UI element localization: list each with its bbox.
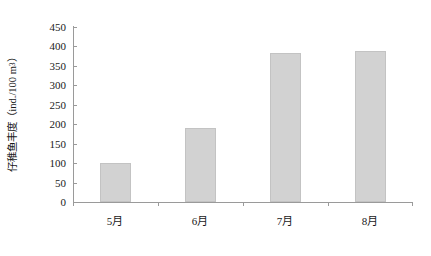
y-tick-mark-150	[73, 144, 77, 145]
y-tick-mark-450	[73, 27, 77, 28]
x-tick-mark-3	[328, 202, 329, 206]
bar-chart: 仔稚鱼丰度（ind./100 m3） 450 400 350 300 250 2…	[0, 0, 431, 256]
x-tick-label-august: 8月	[340, 212, 400, 228]
y-tick-label-300: 300	[36, 79, 66, 91]
y-tick-label-150: 150	[36, 138, 66, 150]
y-tick-label-350: 350	[36, 60, 66, 72]
y-tick-label-400: 400	[36, 40, 66, 52]
y-axis-title-main: 仔稚鱼丰度（ind./100 m	[7, 66, 19, 172]
x-tick-mark-4	[412, 202, 413, 206]
bar-may	[100, 163, 131, 202]
y-tick-label-200: 200	[36, 118, 66, 130]
x-tick-label-may: 5月	[85, 212, 145, 228]
bar-june	[185, 128, 216, 202]
y-tick-mark-300	[73, 85, 77, 86]
y-tick-label-50: 50	[36, 177, 66, 189]
y-tick-mark-400	[73, 46, 77, 47]
y-tick-mark-100	[73, 163, 77, 164]
x-tick-mark-1	[158, 202, 159, 206]
x-tick-mark-0	[73, 202, 74, 206]
y-tick-mark-50	[73, 183, 77, 184]
y-tick-label-100: 100	[36, 157, 66, 169]
y-axis-title-tail: ）	[7, 52, 19, 62]
y-tick-label-450: 450	[36, 21, 66, 33]
x-tick-label-july: 7月	[255, 212, 315, 228]
y-tick-mark-350	[73, 66, 77, 67]
y-tick-label-250: 250	[36, 99, 66, 111]
bar-august	[355, 51, 386, 202]
x-tick-label-june: 6月	[170, 212, 230, 228]
y-axis-line	[73, 26, 74, 203]
y-tick-mark-250	[73, 105, 77, 106]
y-axis-title: 仔稚鱼丰度（ind./100 m3）	[3, 27, 22, 197]
x-tick-mark-2	[243, 202, 244, 206]
bar-july	[270, 53, 301, 202]
y-tick-label-0: 0	[36, 196, 66, 208]
y-tick-mark-200	[73, 124, 77, 125]
